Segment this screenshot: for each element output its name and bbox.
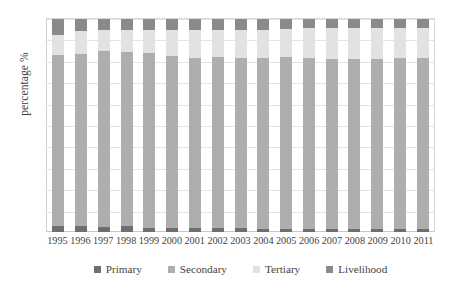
legend-swatch-icon: [94, 266, 101, 273]
bar-segment-secondary: [257, 58, 269, 229]
bar-segment-tertiary: [52, 35, 64, 55]
x-tick-label: 2006: [298, 235, 321, 251]
stacked-bar: [212, 19, 224, 232]
bar-segment-livelihood: [394, 19, 406, 28]
bar-segment-secondary: [303, 58, 315, 228]
bar-segment-secondary: [52, 55, 64, 225]
bar-segment-livelihood: [166, 19, 178, 30]
stacked-bar: [417, 19, 429, 232]
bar-segment-primary: [303, 229, 315, 232]
bar-segment-primary: [280, 229, 292, 232]
bar-column: [93, 19, 116, 232]
legend-label: Secondary: [180, 263, 227, 275]
bar-segment-livelihood: [303, 19, 315, 28]
bar-segment-primary: [166, 228, 178, 232]
bar-column: [115, 19, 138, 232]
bar-segment-livelihood: [143, 19, 155, 30]
x-tick-label: 2003: [229, 235, 252, 251]
bar-column: [229, 19, 252, 232]
bar-column: [206, 19, 229, 232]
bar-segment-tertiary: [121, 30, 133, 52]
legend-item-livelihood[interactable]: Livelihood: [326, 263, 387, 275]
bar-column: [161, 19, 184, 232]
x-tick-label: 1995: [46, 235, 69, 251]
bar-segment-livelihood: [280, 19, 292, 29]
bar-series-group: [47, 19, 434, 232]
x-tick-label: 1997: [92, 235, 115, 251]
x-axis-labels: 1995199619971998199920002001200220032004…: [46, 235, 435, 251]
bar-column: [252, 19, 275, 232]
bar-segment-secondary: [280, 57, 292, 228]
x-tick-label: 1998: [115, 235, 138, 251]
x-tick-label: 1996: [69, 235, 92, 251]
stacked-bar: [143, 19, 155, 232]
stacked-bar: [303, 19, 315, 232]
bar-segment-livelihood: [371, 19, 383, 28]
stacked-bar: [348, 19, 360, 232]
legend-item-tertiary[interactable]: Tertiary: [253, 263, 300, 275]
bar-segment-tertiary: [257, 30, 269, 58]
bar-segment-livelihood: [326, 19, 338, 28]
bar-segment-primary: [394, 229, 406, 232]
bar-column: [70, 19, 93, 232]
bar-segment-secondary: [166, 56, 178, 227]
bar-segment-tertiary: [166, 30, 178, 57]
bar-segment-livelihood: [189, 19, 201, 30]
stacked-bar: [326, 19, 338, 232]
bar-segment-secondary: [98, 51, 110, 227]
bar-segment-primary: [143, 228, 155, 232]
bar-segment-primary: [417, 229, 429, 232]
stacked-bar: [394, 19, 406, 232]
bar-segment-secondary: [348, 59, 360, 229]
bar-segment-tertiary: [280, 29, 292, 58]
bar-segment-primary: [257, 229, 269, 232]
x-tick-label: 2001: [183, 235, 206, 251]
x-tick-label: 2007: [321, 235, 344, 251]
bar-segment-livelihood: [75, 19, 87, 31]
bar-segment-secondary: [394, 58, 406, 229]
bar-segment-secondary: [417, 58, 429, 229]
bar-segment-secondary: [235, 58, 247, 228]
x-tick-label: 1999: [138, 235, 161, 251]
bar-column: [320, 19, 343, 232]
bar-segment-tertiary: [348, 28, 360, 59]
x-tick-label: 2002: [206, 235, 229, 251]
bar-segment-primary: [212, 228, 224, 232]
x-tick-label: 2000: [160, 235, 183, 251]
bar-segment-tertiary: [98, 30, 110, 51]
bar-segment-primary: [75, 226, 87, 232]
x-tick-label: 2009: [366, 235, 389, 251]
stacked-bar: [75, 19, 87, 232]
bar-segment-livelihood: [212, 19, 224, 30]
legend-item-primary[interactable]: Primary: [94, 263, 142, 275]
bar-segment-tertiary: [303, 28, 315, 59]
bar-segment-tertiary: [394, 28, 406, 59]
legend-item-secondary[interactable]: Secondary: [168, 263, 227, 275]
stacked-bar: [257, 19, 269, 232]
y-axis-title: percentage %: [18, 14, 30, 154]
bar-segment-secondary: [326, 59, 338, 229]
bar-segment-primary: [348, 229, 360, 232]
stacked-bar: [189, 19, 201, 232]
x-tick-label: 2005: [275, 235, 298, 251]
bar-segment-tertiary: [143, 30, 155, 53]
bar-column: [47, 19, 70, 232]
bar-column: [184, 19, 207, 232]
bar-segment-secondary: [143, 53, 155, 228]
bar-segment-secondary: [371, 59, 383, 229]
bar-segment-tertiary: [371, 28, 383, 59]
bar-segment-secondary: [212, 57, 224, 228]
bar-segment-tertiary: [326, 28, 338, 59]
bar-column: [343, 19, 366, 232]
bar-segment-primary: [189, 228, 201, 232]
stacked-bar: [166, 19, 178, 232]
x-tick-label: 2010: [389, 235, 412, 251]
bar-column: [411, 19, 434, 232]
bar-segment-primary: [235, 228, 247, 232]
chart-legend: PrimarySecondaryTertiaryLivelihood: [46, 261, 435, 277]
bar-segment-secondary: [75, 54, 87, 227]
legend-label: Livelihood: [338, 263, 387, 275]
bar-segment-livelihood: [417, 19, 429, 28]
bar-segment-livelihood: [52, 19, 64, 35]
bar-segment-primary: [121, 226, 133, 232]
